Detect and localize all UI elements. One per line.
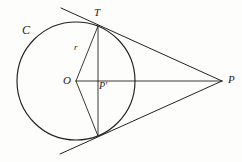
radius-o-to-t-lower: [76, 81, 98, 136]
tangent-line-upper: [61, 8, 222, 81]
label-center-o: O: [63, 75, 71, 86]
label-radius-r: r: [74, 43, 78, 52]
tangent-line-lower: [60, 81, 222, 154]
geometry-figure: C T r O P' P: [0, 0, 242, 162]
label-circle-c: C: [22, 24, 30, 36]
radius-o-to-t: [76, 26, 98, 81]
figure-canvas: [0, 0, 242, 162]
label-external-point-p: P: [228, 74, 235, 85]
label-tangent-point-t: T: [94, 7, 100, 18]
label-foot-p-prime: P': [99, 81, 107, 91]
